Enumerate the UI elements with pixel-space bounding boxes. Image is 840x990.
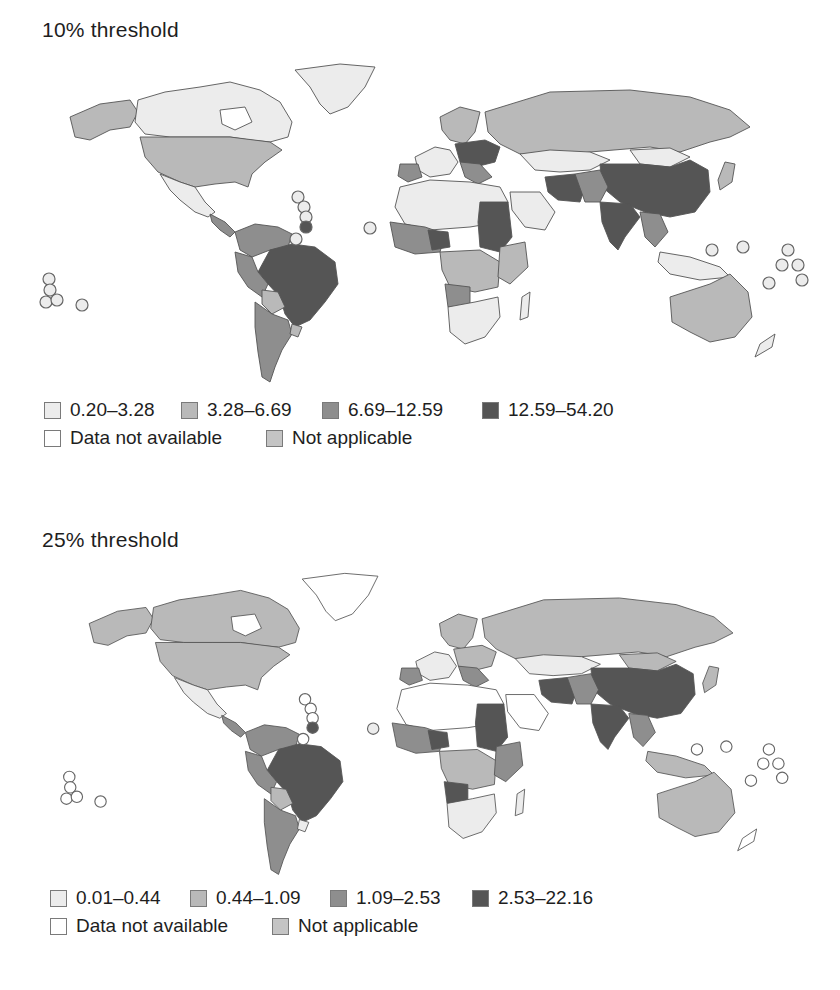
region-egypt-sudan	[475, 704, 507, 751]
region-kazakhstan	[520, 150, 610, 172]
region-australia	[670, 274, 752, 342]
region-balkans	[460, 162, 492, 184]
region-east-africa	[494, 742, 522, 782]
swatch-not-applicable	[272, 918, 289, 935]
legend-10pct: 0.20–3.28 3.28–6.69 6.69–12.59 12.59–54.…	[44, 396, 614, 452]
region-greenland	[302, 573, 378, 620]
legend-item-no-data: Data not available	[44, 427, 266, 449]
swatch-class1	[44, 402, 61, 419]
region-western-europe	[415, 147, 458, 177]
region-india	[600, 202, 640, 250]
region-arabia	[510, 192, 555, 230]
region-western-europe	[416, 652, 457, 680]
legend-row-special: Data not available Not applicable	[50, 912, 593, 940]
world-map-25pct	[30, 562, 830, 882]
legend-item-class1: 0.20–3.28	[44, 399, 181, 421]
legend-label: Not applicable	[292, 427, 412, 449]
region-indonesia	[646, 751, 714, 778]
region-arabia	[506, 695, 549, 731]
panel-title: 25% threshold	[42, 528, 179, 552]
legend-label: 6.69–12.59	[348, 399, 443, 421]
region-usa	[155, 642, 289, 689]
legend-item-class4: 2.53–22.16	[472, 887, 593, 909]
legend-label: 1.09–2.53	[356, 887, 441, 909]
legend-25pct: 0.01–0.44 0.44–1.09 1.09–2.53 2.53–22.16…	[50, 884, 593, 940]
region-east-africa	[498, 242, 528, 284]
region-india	[591, 704, 629, 749]
region-russia	[482, 598, 733, 661]
legend-item-no-data: Data not available	[50, 915, 272, 937]
region-russia	[485, 90, 750, 157]
legend-item-class4: 12.59–54.20	[482, 399, 614, 421]
region-alaska	[89, 607, 153, 645]
region-uruguay	[297, 820, 308, 832]
swatch-class3	[330, 890, 347, 907]
region-iberia	[398, 164, 422, 182]
region-madagascar	[515, 789, 524, 816]
region-egypt-sudan	[478, 202, 512, 252]
swatch-class1	[50, 890, 67, 907]
region-scandinavia	[440, 107, 480, 144]
legend-item-class2: 0.44–1.09	[190, 887, 330, 909]
legend-item-not-applicable: Not applicable	[266, 427, 412, 449]
swatch-class4	[482, 402, 499, 419]
region-nigeria	[428, 731, 449, 750]
world-map-10pct	[30, 52, 830, 390]
legend-row-special: Data not available Not applicable	[44, 424, 614, 452]
region-australia	[657, 772, 735, 836]
region-indonesia	[658, 252, 730, 280]
swatch-not-applicable	[266, 430, 283, 447]
region-se-asia	[629, 713, 656, 746]
legend-label: 12.59–54.20	[508, 399, 614, 421]
region-central-america	[222, 715, 246, 737]
legend-label: 2.53–22.16	[498, 887, 593, 909]
region-usa	[140, 137, 282, 187]
panel-title: 10% threshold	[42, 18, 179, 42]
region-scandinavia	[439, 614, 477, 649]
legend-label: Not applicable	[298, 915, 418, 937]
swatch-class3	[322, 402, 339, 419]
region-new-zealand	[738, 829, 757, 851]
region-nigeria	[428, 230, 450, 250]
legend-row-classes: 0.20–3.28 3.28–6.69 6.69–12.59 12.59–54.…	[44, 396, 614, 424]
region-japan	[703, 666, 719, 693]
region-japan	[718, 162, 735, 190]
legend-label: 0.01–0.44	[76, 887, 161, 909]
legend-label: 0.44–1.09	[216, 887, 301, 909]
region-central-america	[210, 214, 235, 237]
region-balkans	[458, 666, 488, 687]
legend-label: Data not available	[76, 915, 228, 937]
region-uruguay	[290, 324, 302, 337]
region-se-asia	[640, 212, 668, 247]
region-canada	[135, 82, 292, 142]
legend-label: Data not available	[70, 427, 222, 449]
legend-row-classes: 0.01–0.44 0.44–1.09 1.09–2.53 2.53–22.16	[50, 884, 593, 912]
legend-item-class1: 0.01–0.44	[50, 887, 190, 909]
region-alaska	[70, 100, 138, 140]
legend-label: 0.20–3.28	[70, 399, 155, 421]
legend-item-class2: 3.28–6.69	[181, 399, 322, 421]
region-madagascar	[520, 292, 530, 320]
swatch-class2	[181, 402, 198, 419]
legend-item-not-applicable: Not applicable	[272, 915, 418, 937]
region-greenland	[295, 64, 375, 114]
region-canada	[151, 590, 300, 647]
region-new-zealand	[755, 334, 775, 357]
swatch-class2	[190, 890, 207, 907]
swatch-no-data	[44, 430, 61, 447]
region-iberia	[400, 668, 423, 685]
legend-label: 3.28–6.69	[207, 399, 292, 421]
legend-item-class3: 6.69–12.59	[322, 399, 482, 421]
swatch-class4	[472, 890, 489, 907]
swatch-no-data	[50, 918, 67, 935]
region-kazakhstan	[515, 655, 600, 676]
legend-item-class3: 1.09–2.53	[330, 887, 472, 909]
